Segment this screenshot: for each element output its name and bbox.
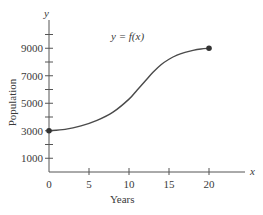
x-axis-title: Years — [110, 194, 135, 205]
x-tick-label: 5 — [79, 179, 99, 190]
y-tick-label: 5000 — [3, 98, 43, 109]
x-tick-label: 10 — [119, 179, 139, 190]
y-tick-label: 3000 — [3, 126, 43, 137]
start-point-marker — [46, 128, 52, 134]
y-tick-label: 1000 — [3, 153, 43, 164]
x-tick-label: 0 — [39, 179, 59, 190]
endpoint-markers — [46, 45, 212, 133]
x-tick-label: 20 — [199, 179, 219, 190]
y-tick-label: 9000 — [3, 43, 43, 54]
x-tick-label: 15 — [159, 179, 179, 190]
data-curve — [49, 48, 209, 131]
curve-annotation: y = f(x) — [111, 31, 144, 42]
y-tick-label: 7000 — [3, 71, 43, 82]
y-axis-var-label: y — [44, 8, 49, 19]
end-point-marker — [206, 45, 212, 51]
x-axis-var-label: x — [250, 166, 255, 177]
